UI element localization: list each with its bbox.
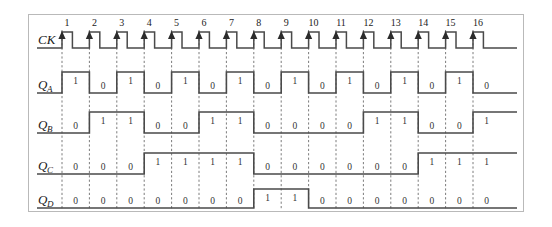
bit-qa-15: 1	[457, 76, 462, 86]
bit-qb-3: 1	[128, 116, 133, 126]
bit-qd-7: 0	[238, 196, 243, 206]
bit-qb-10: 0	[320, 121, 325, 131]
bit-qc-15: 1	[457, 157, 462, 167]
bit-qb-13: 1	[402, 116, 407, 126]
bit-qc-2: 0	[101, 162, 106, 172]
bit-qa-7: 1	[238, 76, 243, 86]
bit-qd-14: 0	[430, 196, 435, 206]
bit-qd-10: 0	[320, 196, 325, 206]
bit-qa-10: 0	[320, 81, 325, 91]
bit-qb-16: 1	[484, 116, 489, 126]
bit-qb-12: 1	[375, 116, 380, 126]
bit-qd-8: 1	[265, 193, 270, 203]
bit-qa-11: 1	[347, 76, 352, 86]
bit-qd-13: 0	[402, 196, 407, 206]
bit-qa-6: 0	[210, 81, 215, 91]
bit-qa-3: 1	[128, 76, 133, 86]
bit-qb-11: 0	[347, 121, 352, 131]
bit-qd-11: 0	[347, 196, 352, 206]
signal-trace-qb	[37, 112, 517, 133]
signal-subscript-qd: D	[46, 199, 54, 209]
signal-subscript-qc: C	[47, 165, 54, 175]
clock-pulse-number-15: 15	[446, 17, 456, 28]
clock-pulse-number-5: 5	[174, 17, 179, 28]
bit-qc-10: 0	[320, 162, 325, 172]
bit-qb-14: 0	[430, 121, 435, 131]
bit-qa-8: 0	[265, 81, 270, 91]
bit-qd-6: 0	[210, 196, 215, 206]
bit-qb-1: 0	[73, 121, 78, 131]
clock-pulse-number-12: 12	[363, 17, 373, 28]
bit-qb-4: 0	[156, 121, 161, 131]
timing-diagram: CK12345678910111213141516QA1010101010101…	[0, 0, 552, 227]
clock-pulse-number-3: 3	[119, 17, 124, 28]
signal-trace-qd	[37, 189, 517, 208]
bit-qc-3: 0	[128, 162, 133, 172]
bit-qc-8: 0	[265, 162, 270, 172]
bit-qd-2: 0	[101, 196, 106, 206]
bit-qd-4: 0	[156, 196, 161, 206]
clock-pulse-number-11: 11	[336, 17, 346, 28]
clock-pulse-number-2: 2	[92, 17, 97, 28]
bit-qa-9: 1	[293, 76, 298, 86]
bit-qc-16: 1	[484, 157, 489, 167]
bit-qa-12: 0	[375, 81, 380, 91]
bit-qd-15: 0	[457, 196, 462, 206]
bit-qc-12: 0	[375, 162, 380, 172]
signal-waveforms	[37, 72, 517, 208]
bit-qb-7: 1	[238, 116, 243, 126]
bit-qb-15: 0	[457, 121, 462, 131]
bit-qa-14: 0	[430, 81, 435, 91]
clock-pulse-number-14: 14	[418, 17, 428, 28]
clock-pulse-number-6: 6	[202, 17, 207, 28]
bit-qc-6: 1	[210, 157, 215, 167]
signal-label-ck: CK	[38, 32, 57, 47]
bit-qc-1: 0	[73, 162, 78, 172]
bit-qc-11: 0	[347, 162, 352, 172]
bit-qd-5: 0	[183, 196, 188, 206]
bit-qd-16: 0	[484, 196, 489, 206]
signal-subscript-qb: B	[47, 124, 53, 134]
bit-qa-16: 0	[484, 81, 489, 91]
bit-qc-14: 1	[430, 157, 435, 167]
clock-pulse-number-4: 4	[147, 17, 152, 28]
clock-pulse-number-8: 8	[256, 17, 261, 28]
clock-pulse-number-1: 1	[65, 17, 70, 28]
clock-pulse-number-9: 9	[284, 17, 289, 28]
bit-qc-7: 1	[238, 157, 243, 167]
clock-pulse-number-16: 16	[473, 17, 483, 28]
bit-qc-5: 1	[183, 157, 188, 167]
bit-qd-9: 1	[293, 193, 298, 203]
clock-pulse-number-13: 13	[391, 17, 401, 28]
bit-qa-13: 1	[402, 76, 407, 86]
bit-qa-5: 1	[183, 76, 188, 86]
bit-qc-4: 1	[156, 157, 161, 167]
bit-qc-9: 0	[293, 162, 298, 172]
waveform-canvas: CK12345678910111213141516QA1010101010101…	[0, 0, 552, 227]
bit-qc-13: 0	[402, 162, 407, 172]
bit-qa-2: 0	[101, 81, 106, 91]
clock-pulse-number-10: 10	[309, 17, 319, 28]
bit-qb-2: 1	[101, 116, 106, 126]
signal-trace-qa	[37, 72, 517, 93]
bit-qa-4: 0	[156, 81, 161, 91]
bit-qb-8: 0	[265, 121, 270, 131]
clock-pulse-number-7: 7	[229, 17, 234, 28]
bit-qb-6: 1	[210, 116, 215, 126]
bit-qd-1: 0	[73, 196, 78, 206]
clock-waveform	[37, 31, 517, 48]
bit-qa-1: 1	[73, 76, 78, 86]
bit-qb-5: 0	[183, 121, 188, 131]
signal-subscript-qa: A	[46, 84, 53, 94]
bit-qd-12: 0	[375, 196, 380, 206]
bit-qd-3: 0	[128, 196, 133, 206]
bit-qb-9: 0	[293, 121, 298, 131]
grid-lines	[62, 30, 473, 209]
signal-trace-qc	[37, 153, 517, 174]
